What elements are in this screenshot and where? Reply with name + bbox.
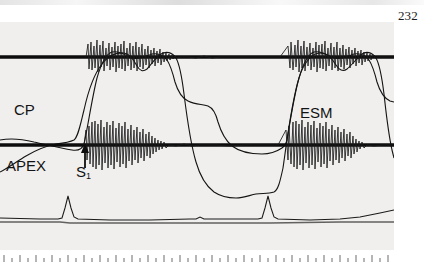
scan-artifact-strip [0, 0, 424, 5]
label-cp: CP [14, 101, 35, 118]
ecg-baseline-shadow [0, 222, 394, 223]
label-esm: ESM [300, 104, 333, 121]
ecg-trace [0, 196, 394, 220]
phonocardiogram-figure: 232 CP APEX ESM [0, 0, 424, 269]
label-s1-main: S [76, 163, 86, 180]
apexcardiogram-trace [0, 52, 394, 198]
waveform-canvas [0, 22, 394, 250]
page-number: 232 [398, 8, 418, 24]
trace-panel [0, 22, 394, 250]
label-apex: APEX [6, 157, 46, 174]
label-s1: S1 [76, 163, 91, 180]
label-s1-subscript: 1 [86, 171, 91, 181]
timing-mark-strip [0, 252, 394, 264]
